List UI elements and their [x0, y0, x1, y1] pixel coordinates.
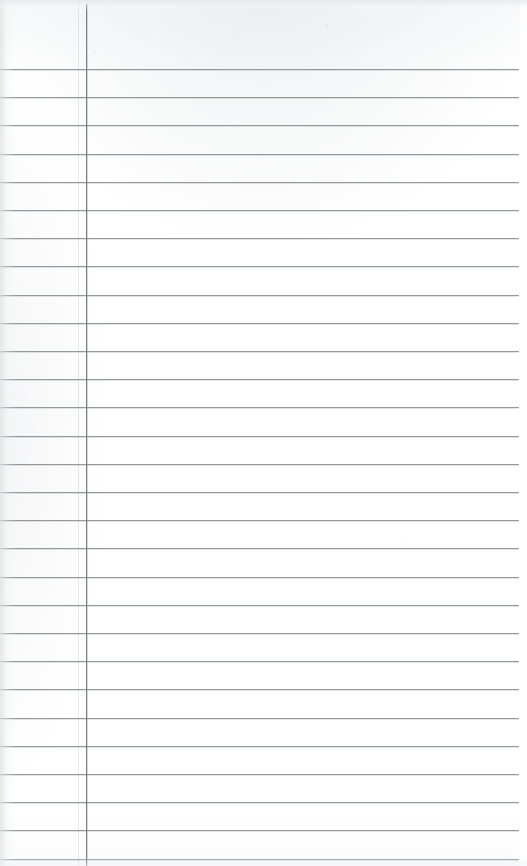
notepad-page [0, 0, 527, 866]
horizontal-rule-lines [0, 0, 527, 866]
margin-line-ghost [78, 0, 79, 866]
vertical-margin-line [86, 4, 87, 866]
